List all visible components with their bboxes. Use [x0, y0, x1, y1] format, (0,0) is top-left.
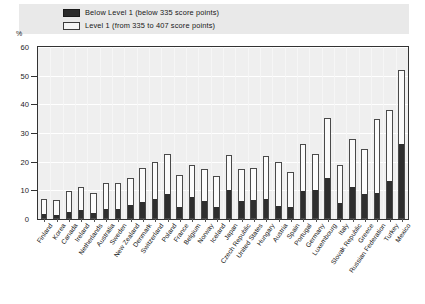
chart-legend: Below Level 1 (below 335 score points) L…	[19, 4, 409, 34]
bar-slot	[383, 47, 395, 219]
x-axis-tick-mark	[57, 219, 58, 222]
stacked-bar[interactable]	[78, 187, 85, 219]
x-axis-tick-mark	[229, 219, 230, 222]
stacked-bar[interactable]	[349, 139, 356, 219]
bar-slot	[124, 47, 136, 219]
bar-segment-below-level-1	[288, 207, 293, 218]
stacked-bar[interactable]	[287, 172, 294, 219]
bar-slot	[161, 47, 173, 219]
x-axis-tick-mark	[328, 219, 329, 222]
x-axis-tick-mark	[353, 219, 354, 222]
dark-square-icon	[63, 9, 80, 17]
bar-slot	[359, 47, 371, 219]
bar-series-group	[38, 47, 408, 219]
bar-segment-below-level-1	[227, 190, 232, 218]
bar-slot	[248, 47, 260, 219]
x-axis-tick-mark	[155, 219, 156, 222]
stacked-bar[interactable]	[201, 169, 208, 219]
bar-slot	[75, 47, 87, 219]
bar-segment-below-level-1	[104, 209, 109, 218]
stacked-bar[interactable]	[250, 168, 257, 219]
stacked-bar[interactable]	[103, 183, 110, 219]
bar-slot	[63, 47, 75, 219]
bar-slot	[322, 47, 334, 219]
x-axis-tick-mark	[402, 219, 403, 222]
x-axis-label-finland: Finland	[35, 222, 53, 244]
stacked-bar[interactable]	[41, 199, 48, 219]
y-axis-tick-label-20: 20	[3, 157, 29, 166]
stacked-bar[interactable]	[115, 183, 122, 219]
x-axis-tick-mark	[365, 219, 366, 222]
bar-segment-below-level-1	[190, 197, 195, 218]
x-axis-tick-mark	[168, 219, 169, 222]
x-axis-tick-mark	[390, 219, 391, 222]
y-axis-tick-mark	[31, 76, 37, 77]
bar-segment-below-level-1	[202, 201, 207, 218]
stacked-bar[interactable]	[164, 154, 171, 219]
bar-segment-below-level-1	[177, 207, 182, 218]
stacked-bar[interactable]	[213, 176, 220, 219]
x-axis-tick-mark	[192, 219, 193, 222]
stacked-bar[interactable]	[238, 169, 245, 219]
x-axis-tick-mark	[377, 219, 378, 222]
bar-slot	[223, 47, 235, 219]
stacked-bar[interactable]	[127, 178, 134, 219]
bar-segment-below-level-1	[214, 207, 219, 218]
y-axis-tick-label-40: 40	[3, 100, 29, 109]
stacked-bar[interactable]	[324, 118, 331, 219]
y-axis-tick-mark	[31, 104, 37, 105]
bar-slot	[149, 47, 161, 219]
bar-segment-below-level-1	[362, 194, 367, 218]
bar-slot	[285, 47, 297, 219]
x-axis-tick-mark	[266, 219, 267, 222]
x-axis-tick-mark	[205, 219, 206, 222]
bar-segment-below-level-1	[264, 199, 269, 218]
light-square-icon	[63, 22, 80, 30]
bar-segment-below-level-1	[276, 206, 281, 218]
bar-segment-below-level-1	[79, 210, 84, 218]
stacked-bar[interactable]	[300, 144, 307, 219]
stacked-bar[interactable]	[361, 149, 368, 219]
x-axis-tick-mark	[94, 219, 95, 222]
stacked-bar[interactable]	[139, 168, 146, 219]
bar-segment-below-level-1	[165, 194, 170, 218]
bar-segment-below-level-1	[387, 181, 392, 218]
stacked-bar[interactable]	[226, 155, 233, 219]
bar-slot	[346, 47, 358, 219]
stacked-bar[interactable]	[53, 200, 60, 219]
stacked-bar[interactable]	[374, 119, 381, 219]
stacked-bar[interactable]	[90, 193, 97, 219]
y-axis-tick-mark	[31, 190, 37, 191]
x-axis-tick-mark	[316, 219, 317, 222]
bar-segment-below-level-1	[91, 213, 96, 218]
bar-slot	[211, 47, 223, 219]
bar-slot	[87, 47, 99, 219]
x-axis-tick-mark	[131, 219, 132, 222]
bar-segment-below-level-1	[67, 212, 72, 218]
stacked-bar[interactable]	[312, 154, 319, 219]
bar-segment-below-level-1	[116, 209, 121, 218]
x-axis-tick-mark	[217, 219, 218, 222]
chart-container: Below Level 1 (below 335 score points) L…	[0, 0, 425, 304]
stacked-bar[interactable]	[275, 162, 282, 219]
stacked-bar[interactable]	[386, 110, 393, 219]
stacked-bar[interactable]	[176, 175, 183, 219]
x-axis-labels: FinlandKoreaCanadaIrelandNetherlandsAust…	[38, 222, 408, 304]
bar-slot	[260, 47, 272, 219]
stacked-bar[interactable]	[152, 162, 159, 219]
stacked-bar[interactable]	[66, 191, 73, 219]
bar-slot	[334, 47, 346, 219]
bar-segment-below-level-1	[325, 178, 330, 218]
stacked-bar[interactable]	[263, 156, 270, 219]
bar-segment-below-level-1	[399, 144, 404, 218]
x-axis-tick-mark	[69, 219, 70, 222]
y-axis: 0102030405060	[0, 46, 37, 220]
stacked-bar[interactable]	[398, 70, 405, 219]
stacked-bar[interactable]	[189, 165, 196, 219]
bar-slot	[235, 47, 247, 219]
bar-slot	[186, 47, 198, 219]
bar-segment-below-level-1	[128, 205, 133, 218]
y-axis-tick-label-0: 0	[3, 215, 29, 224]
bar-slot	[50, 47, 62, 219]
stacked-bar[interactable]	[337, 165, 344, 219]
